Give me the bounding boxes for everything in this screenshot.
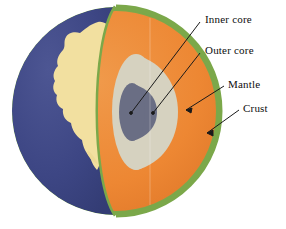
- label-inner-core: Inner core: [205, 14, 252, 25]
- earth-cutaway-illustration: [0, 0, 286, 229]
- leader-dot-inner-core: [130, 112, 133, 115]
- leader-dot-outer-core: [152, 112, 155, 115]
- earth-interior-diagram: Inner core Outer core Mantle Crust: [0, 0, 286, 229]
- label-crust: Crust: [243, 103, 268, 114]
- label-outer-core: Outer core: [205, 45, 254, 56]
- label-mantle: Mantle: [228, 79, 260, 90]
